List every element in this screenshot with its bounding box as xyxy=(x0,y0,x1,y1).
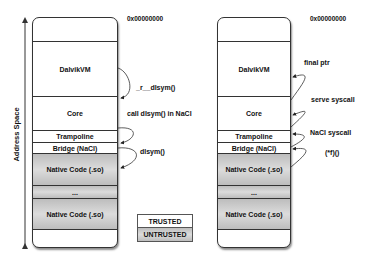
arrow-label-fptr-call: (*f)() xyxy=(325,149,339,156)
arrow-label-nacl-syscall: NaCl syscall xyxy=(310,129,351,136)
arrow-label-final-ptr: final ptr xyxy=(304,59,330,66)
arrow-label-serve-syscall: serve syscall xyxy=(311,96,355,103)
